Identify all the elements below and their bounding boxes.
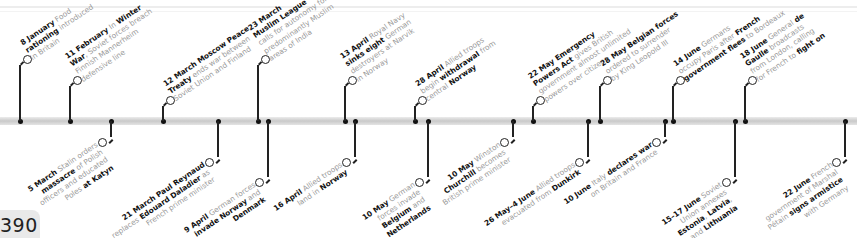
event-label-bottom: 15–17 June SovietUnion annexesEstonia, L… bbox=[661, 180, 740, 238]
event-label-bottom: 22 June Frenchgovernment of MarshalPétai… bbox=[756, 160, 850, 238]
connector-line bbox=[267, 121, 269, 177]
connector-line bbox=[344, 86, 346, 121]
connector-elbow bbox=[425, 179, 430, 184]
connector-line bbox=[587, 121, 589, 157]
connector-line bbox=[162, 106, 164, 121]
connector-line bbox=[664, 121, 666, 137]
connector-elbow bbox=[662, 139, 667, 144]
connector-elbow bbox=[842, 159, 847, 164]
connector-line bbox=[734, 121, 736, 177]
connector-line bbox=[672, 86, 674, 121]
event-label-top: 13 April Royal Navysinks eight Germandes… bbox=[338, 10, 423, 84]
connector-elbow bbox=[265, 179, 270, 184]
connector-line bbox=[512, 121, 514, 137]
connector-line bbox=[427, 121, 429, 177]
event-label-top: 28 April Allied troopsbegin withdrawal f… bbox=[414, 31, 503, 104]
connector-line bbox=[844, 121, 846, 157]
event-text-line: Treaty ends war between bbox=[167, 32, 256, 96]
connector-line bbox=[744, 86, 746, 121]
connector-line bbox=[599, 86, 601, 121]
connector-elbow bbox=[108, 139, 113, 144]
connector-elbow bbox=[732, 179, 737, 184]
event-text-line: 16 April Allied troops bbox=[272, 160, 344, 213]
event-label-bottom: 10 May WinstonChurchill becomesBritish p… bbox=[431, 140, 513, 208]
event-label-bottom: 10 May Germanforces invadeBelgium andNet… bbox=[361, 180, 433, 238]
page-number: 390 bbox=[0, 214, 38, 236]
connector-elbow bbox=[352, 159, 357, 164]
event-marker-icon bbox=[205, 158, 214, 167]
connector-elbow bbox=[215, 159, 220, 164]
connector-line bbox=[217, 121, 219, 157]
connector-elbow bbox=[510, 139, 515, 144]
event-label-bottom: 16 April Allied troopsland in Norway bbox=[272, 160, 350, 221]
connector-line bbox=[354, 121, 356, 157]
connector-line bbox=[110, 121, 112, 137]
connector-line bbox=[532, 106, 534, 121]
connector-line bbox=[257, 65, 259, 121]
connector-line bbox=[69, 86, 71, 121]
event-label-bottom: 5 March Stalin ordersmassacre of Polisho… bbox=[27, 140, 116, 217]
connector-line bbox=[19, 65, 21, 121]
event-label-top: 23 MarchMuslim Leaguecalls for autonomy … bbox=[246, 0, 340, 63]
event-label-top: 12 March Moscow PeaceTreaty ends war bet… bbox=[162, 24, 262, 104]
connector-elbow bbox=[585, 159, 590, 164]
connector-line bbox=[414, 106, 416, 121]
